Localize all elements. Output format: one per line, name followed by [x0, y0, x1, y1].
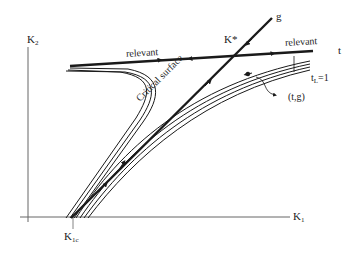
fixed-point-label: K*: [224, 34, 237, 45]
relevant-label-right: relevant: [285, 36, 318, 48]
t-axis-label: t: [338, 45, 341, 56]
k1c-label: K1c: [64, 231, 79, 244]
g-axis-label: g: [276, 11, 282, 22]
x-axis-label: K1: [293, 211, 304, 224]
relevant-label-left: relevant: [126, 47, 159, 59]
tg-point-marker: [246, 72, 250, 76]
tl-label: tL=1: [311, 73, 329, 85]
relevant-line: [70, 51, 313, 66]
tg-label: (t,g): [288, 92, 305, 102]
right-flow-curves: [76, 61, 310, 218]
y-axis-label: K2: [27, 34, 38, 47]
